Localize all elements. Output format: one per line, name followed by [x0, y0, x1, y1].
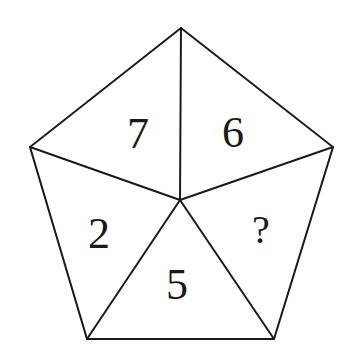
pentagon-diagram: 7 6 ? 5 2: [0, 0, 352, 363]
section-bottom-value: 5: [166, 260, 188, 309]
section-upper-left-value: 7: [127, 109, 149, 158]
section-left-value: 2: [88, 209, 110, 258]
puzzle-canvas: 7 6 ? 5 2: [0, 0, 352, 363]
spoke-right: [180, 147, 333, 200]
section-right-unknown: ?: [252, 207, 270, 252]
spoke-left: [30, 147, 180, 200]
spoke-top: [180, 28, 181, 200]
section-upper-right-value: 6: [222, 108, 244, 157]
